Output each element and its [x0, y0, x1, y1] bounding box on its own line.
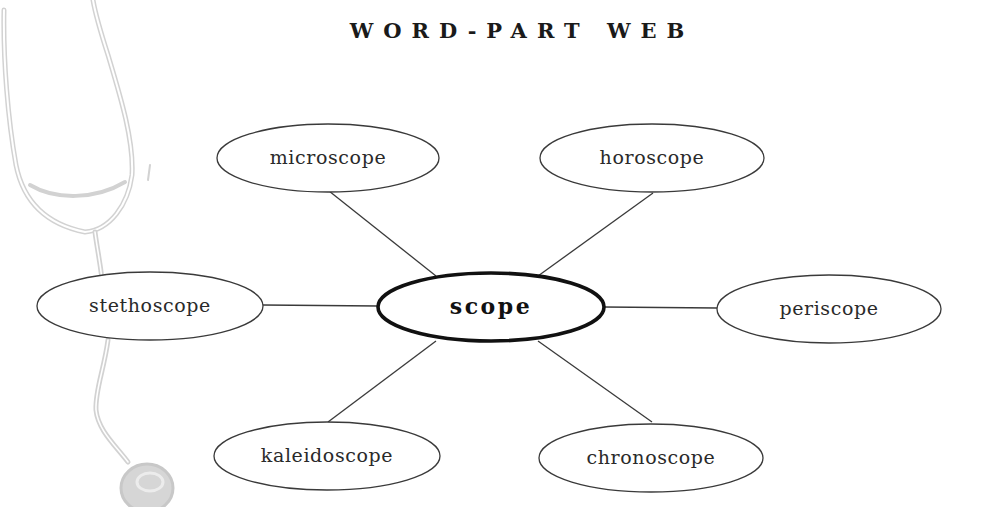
connector-kaleidoscope [328, 341, 436, 422]
center-node-label: scope [450, 293, 532, 319]
connector-horoscope [538, 193, 653, 276]
connector-microscope [329, 191, 436, 276]
stethoscope-illustration-icon [4, 0, 150, 462]
connector-periscope [604, 307, 717, 308]
connector-stethoscope [263, 305, 378, 306]
node-label-chronoscope: chronoscope [587, 446, 716, 468]
chestpiece-icon [121, 464, 173, 507]
node-label-kaleidoscope: kaleidoscope [261, 444, 393, 466]
node-label-microscope: microscope [270, 146, 387, 168]
node-label-periscope: periscope [779, 297, 878, 319]
node-label-horoscope: horoscope [600, 146, 705, 168]
node-label-stethoscope: stethoscope [89, 294, 211, 316]
word-web-canvas [0, 0, 982, 507]
connector-chronoscope [538, 341, 652, 422]
page-title: WORD-PART WEB [0, 18, 982, 43]
